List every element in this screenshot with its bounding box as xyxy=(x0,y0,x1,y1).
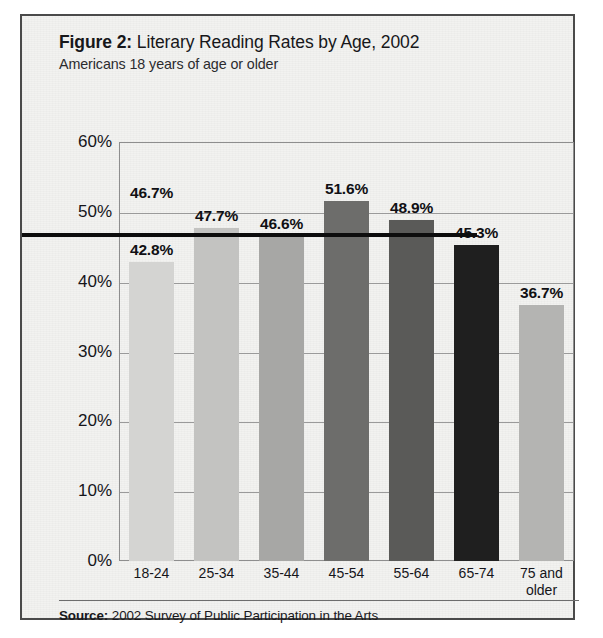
bar-value-label-35-44: 46.6% xyxy=(260,215,303,233)
bar-value-label-25-34: 47.7% xyxy=(195,207,238,225)
y-tick-label-40: 40% xyxy=(50,272,112,292)
bars-layer: 42.8%47.7%46.6%51.6%48.9%45.3%36.7%46.7% xyxy=(119,142,574,561)
figure-title-text: Literary Reading Rates by Age, 2002 xyxy=(137,32,420,52)
bar-value-label-55-64: 48.9% xyxy=(390,199,433,217)
source-note: Source: 2002 Survey of Public Participat… xyxy=(59,608,378,623)
bar-value-label-45-54: 51.6% xyxy=(325,180,368,198)
y-tick-label-30: 30% xyxy=(50,342,112,362)
y-tick-label-0: 0% xyxy=(50,551,112,571)
bar-45-54[interactable] xyxy=(324,201,370,561)
average-reference-label: 46.7% xyxy=(130,184,173,202)
y-tick-label-10: 10% xyxy=(50,481,112,501)
bar-75-and-older[interactable] xyxy=(519,305,565,561)
bar-35-44[interactable] xyxy=(259,236,305,561)
x-tick-label-45-54: 45-54 xyxy=(314,565,379,582)
y-axis: 0%10%20%30%40%50%60% xyxy=(42,142,112,561)
source-text: 2002 Survey of Public Participation in t… xyxy=(112,608,378,623)
figure-number-label: Figure 2: xyxy=(59,32,132,52)
x-tick-label-18-24: 18-24 xyxy=(119,565,184,582)
source-divider xyxy=(59,600,579,601)
x-tick-label-75-and-older: 75 andolder xyxy=(509,565,574,599)
x-axis: 18-2425-3435-4445-5455-6465-7475 andolde… xyxy=(119,565,574,613)
x-tick-label-65-74: 65-74 xyxy=(444,565,509,582)
figure-heading: Figure 2: Literary Reading Rates by Age,… xyxy=(59,32,559,72)
bar-25-34[interactable] xyxy=(194,228,240,561)
figure-frame: Figure 2: Literary Reading Rates by Age,… xyxy=(20,14,575,620)
bar-55-64[interactable] xyxy=(389,220,435,561)
figure-subtitle: Americans 18 years of age or older xyxy=(59,56,559,72)
y-tick-label-50: 50% xyxy=(50,202,112,222)
bar-65-74[interactable] xyxy=(454,245,500,561)
page-title: Figure 2: Literary Reading Rates by Age,… xyxy=(59,32,559,53)
x-tick-label-55-64: 55-64 xyxy=(379,565,444,582)
source-label: Source: xyxy=(59,608,108,623)
bar-value-label-18-24: 42.8% xyxy=(130,241,173,259)
x-tick-label-25-34: 25-34 xyxy=(184,565,249,582)
y-tick-label-20: 20% xyxy=(50,411,112,431)
bar-18-24[interactable] xyxy=(129,262,175,561)
average-reference-line xyxy=(22,233,477,237)
y-tick-label-60: 60% xyxy=(50,132,112,152)
bar-value-label-75-and-older: 36.7% xyxy=(520,284,563,302)
x-tick-label-35-44: 35-44 xyxy=(249,565,314,582)
